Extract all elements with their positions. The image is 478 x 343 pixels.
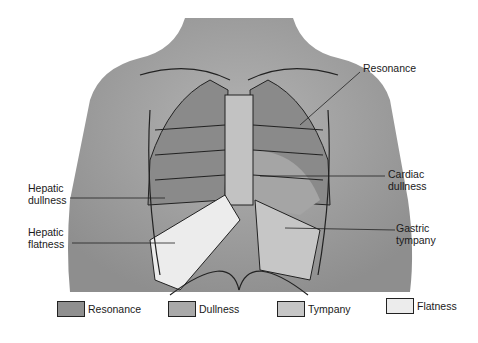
- label-hepatic-flat-line1: Hepatic: [28, 226, 64, 238]
- label-cardiac-line2: dullness: [388, 180, 427, 192]
- legend-label: Flatness: [417, 300, 457, 312]
- legend-item-dullness: Dullness: [168, 301, 239, 317]
- sternum: [225, 95, 253, 205]
- label-gastric-line1: Gastric: [396, 222, 436, 234]
- swatch-dullness: [168, 301, 196, 317]
- label-hepatic-flatness: Hepatic flatness: [28, 226, 64, 250]
- label-gastric-tympany: Gastric tympany: [396, 222, 436, 246]
- label-resonance: Resonance: [363, 62, 416, 74]
- swatch-flatness: [386, 298, 414, 314]
- legend-label: Resonance: [88, 303, 141, 315]
- legend-item-resonance: Resonance: [57, 301, 141, 317]
- label-hepatic-flat-line2: flatness: [28, 238, 64, 250]
- legend-label: Tympany: [308, 303, 351, 315]
- label-hepatic-dull-line2: dullness: [28, 194, 67, 206]
- label-hepatic-dullness: Hepatic dullness: [28, 182, 67, 206]
- label-cardiac-dullness: Cardiac dullness: [388, 168, 427, 192]
- legend-item-flatness: Flatness: [386, 298, 457, 314]
- label-gastric-line2: tympany: [396, 234, 436, 246]
- swatch-resonance: [57, 301, 85, 317]
- swatch-tympany: [277, 301, 305, 317]
- legend-item-tympany: Tympany: [277, 301, 351, 317]
- label-cardiac-line1: Cardiac: [388, 168, 427, 180]
- label-hepatic-dull-line1: Hepatic: [28, 182, 67, 194]
- legend-label: Dullness: [199, 303, 239, 315]
